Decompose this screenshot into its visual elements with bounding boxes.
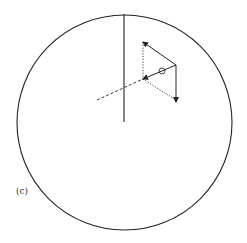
dashed-axis: [97, 79, 143, 100]
diagram-canvas: [0, 0, 247, 243]
dotted-guide-diagonal: [143, 79, 176, 100]
upper-left-vector-arrow: [143, 42, 176, 65]
panel-label: (c): [16, 186, 28, 196]
